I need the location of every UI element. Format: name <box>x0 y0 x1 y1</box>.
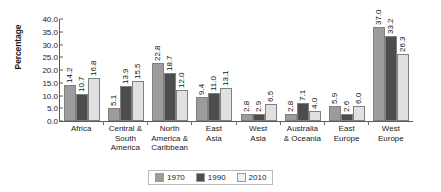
x-axis-label-line: Africa <box>60 124 102 134</box>
bar[interactable] <box>196 97 208 121</box>
bar-value-label: 18.7 <box>166 56 174 72</box>
plot-area: 40.035.030.025.020.015.010.05.00.0 14.21… <box>59 19 413 122</box>
y-axis-tick-label: 20.0 <box>42 66 60 75</box>
bar-value-label: 6.0 <box>355 93 363 104</box>
bar-group: 22.818.712.0 <box>148 19 192 121</box>
bar-slot: 16.8 <box>88 19 100 121</box>
x-axis-label-line: West <box>370 124 412 134</box>
bar-slot: 4.0 <box>309 19 321 121</box>
x-axis-label-line: Asia <box>237 134 279 144</box>
bar-slot: 15.5 <box>132 19 144 121</box>
bar-slot: 6.5 <box>265 19 277 121</box>
y-axis-tick: 30.0 <box>42 40 60 49</box>
x-axis-label-line: West <box>237 124 279 134</box>
bar[interactable] <box>253 114 265 121</box>
bar-value-label: 6.5 <box>267 91 275 102</box>
bar-value-label: 33.2 <box>387 19 395 35</box>
bar-group: 2.82.96.5 <box>237 19 281 121</box>
y-axis-tick-label: 35.0 <box>42 27 60 36</box>
x-axis-category-label: WestEurope <box>369 124 413 153</box>
bar[interactable] <box>265 104 277 121</box>
legend-item[interactable]: 1970 <box>155 173 185 182</box>
bar-slot: 5.9 <box>329 19 341 121</box>
y-axis-tick-label: 15.0 <box>42 78 60 87</box>
bar[interactable] <box>88 78 100 121</box>
bar-value-label: 9.4 <box>198 84 206 95</box>
bar[interactable] <box>164 73 176 121</box>
bar[interactable] <box>152 63 164 121</box>
bar-group: 14.210.716.8 <box>60 19 104 121</box>
y-axis-tick: 25.0 <box>42 53 60 62</box>
bar-slot: 5.1 <box>108 19 120 121</box>
bar[interactable] <box>132 81 144 121</box>
bar[interactable] <box>220 88 232 121</box>
bar[interactable] <box>64 85 76 121</box>
bar-group: 2.87.14.0 <box>281 19 325 121</box>
y-axis-tick: 15.0 <box>42 78 60 87</box>
y-axis-tick-label: 40.0 <box>42 15 60 24</box>
x-axis-category-label: WestAsia <box>236 124 280 153</box>
x-axis-label-line: Caribbean <box>149 143 191 153</box>
bar[interactable] <box>120 86 132 121</box>
x-axis-category-label: NorthAmerica &Caribbean <box>148 124 192 153</box>
bar[interactable] <box>309 111 321 121</box>
bar-slot: 33.2 <box>385 19 397 121</box>
bar-slot: 2.8 <box>241 19 253 121</box>
bar-slot: 13.9 <box>120 19 132 121</box>
chart-legend: 197019902010 <box>148 170 273 185</box>
bar[interactable] <box>297 103 309 121</box>
legend-item[interactable]: 1990 <box>196 173 226 182</box>
y-axis-title: Percentage <box>13 7 23 87</box>
x-axis-label-line: North <box>149 124 191 134</box>
bar[interactable] <box>76 94 88 121</box>
bar-group: 5.113.915.5 <box>104 19 148 121</box>
bar-value-label: 2.9 <box>255 100 263 111</box>
bar-slot: 2.9 <box>253 19 265 121</box>
bar[interactable] <box>385 36 397 121</box>
bar-slot: 6.0 <box>353 19 365 121</box>
bar-value-label: 2.8 <box>243 101 251 112</box>
x-axis-label-line: East <box>326 124 368 134</box>
bar[interactable] <box>397 54 409 121</box>
bar[interactable] <box>176 90 188 121</box>
bar[interactable] <box>329 106 341 121</box>
bar[interactable] <box>341 114 353 121</box>
bar-slot: 37.0 <box>373 19 385 121</box>
bar[interactable] <box>353 106 365 121</box>
bar-value-label: 4.0 <box>311 98 319 109</box>
x-axis-label-line: East <box>193 124 235 134</box>
legend-label: 2010 <box>249 173 267 182</box>
bar-value-label: 10.7 <box>78 76 86 92</box>
bar-slot: 9.4 <box>196 19 208 121</box>
bar-slot: 18.7 <box>164 19 176 121</box>
y-axis-tick-label: 10.0 <box>42 91 60 100</box>
bar-value-label: 13.1 <box>222 70 230 86</box>
y-axis-tick: 5.0 <box>47 104 60 113</box>
bar-slot: 13.1 <box>220 19 232 121</box>
bar[interactable] <box>285 114 297 121</box>
x-axis-category-label: Australia& Oceania <box>280 124 324 153</box>
bar-value-label: 16.8 <box>90 61 98 77</box>
bar-slot: 11.0 <box>208 19 220 121</box>
y-axis-tick: 40.0 <box>42 15 60 24</box>
bar-group: 5.92.66.0 <box>325 19 369 121</box>
bar-value-label: 37.0 <box>375 9 383 25</box>
bar[interactable] <box>373 27 385 121</box>
bar[interactable] <box>108 108 120 121</box>
x-axis-label-line: Australia <box>281 124 323 134</box>
x-axis-label-line: Asia <box>193 134 235 144</box>
x-axis-category-label: EastAsia <box>192 124 236 153</box>
legend-swatch <box>155 173 164 182</box>
x-axis-label-line: Europe <box>370 134 412 144</box>
bar-slot: 10.7 <box>76 19 88 121</box>
legend-item[interactable]: 2010 <box>237 173 267 182</box>
bar-groups: 14.210.716.85.113.915.522.818.712.09.411… <box>60 19 413 121</box>
x-axis-labels: AfricaCentral &SouthAmericaNorthAmerica … <box>59 124 413 153</box>
x-axis-label-line: Europe <box>326 134 368 144</box>
bar[interactable] <box>208 93 220 121</box>
bar-slot: 14.2 <box>64 19 76 121</box>
bar[interactable] <box>241 114 253 121</box>
bar-slot: 22.8 <box>152 19 164 121</box>
x-axis-label-line: America <box>104 143 146 153</box>
y-axis-tick-label: 25.0 <box>42 53 60 62</box>
